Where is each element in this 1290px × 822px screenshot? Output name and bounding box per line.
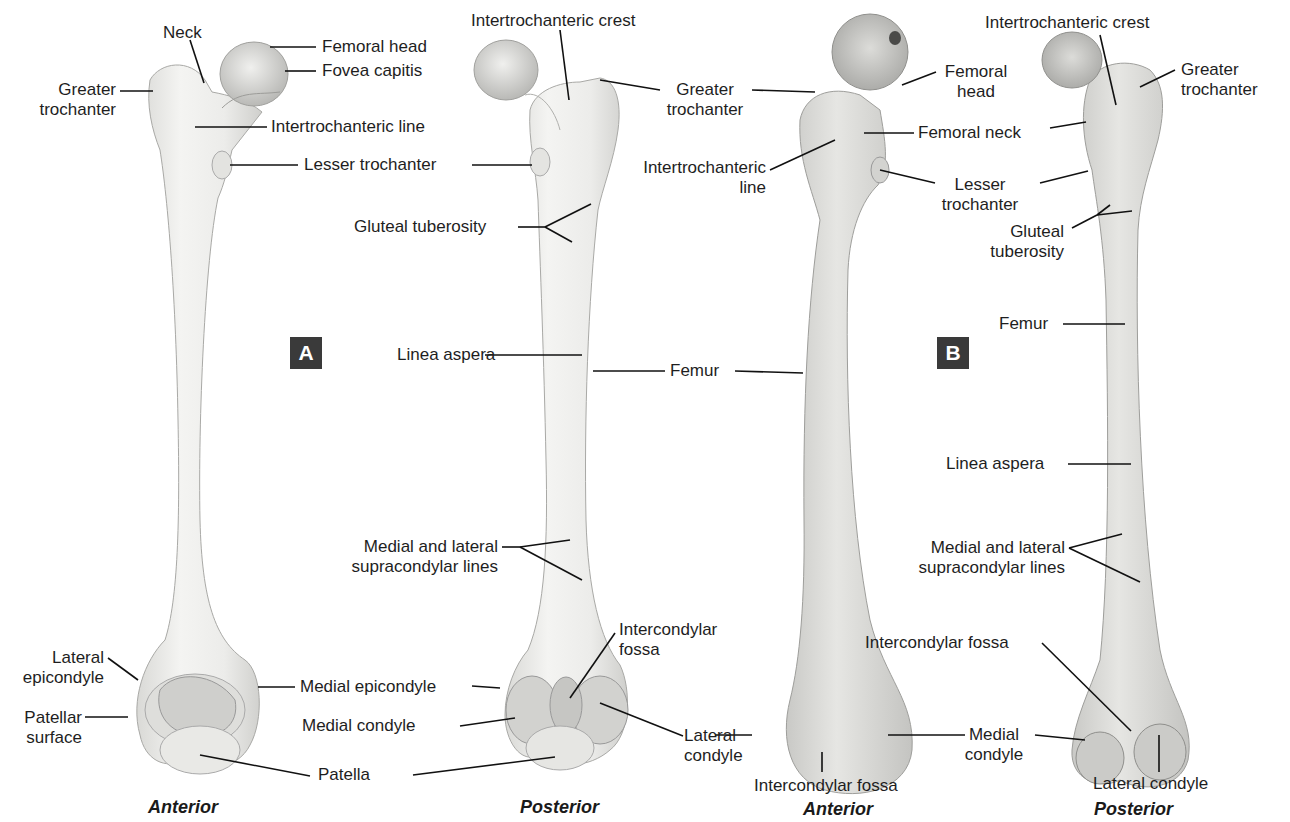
- label-intercondylar-fossa-b-post: Intercondylar fossa: [865, 633, 1009, 653]
- label-line: Greater: [655, 80, 755, 100]
- label-medial-condyle-a: Medial condyle: [302, 716, 415, 736]
- view-label-a-anterior: Anterior: [148, 797, 218, 818]
- view-label-a-posterior: Posterior: [520, 797, 599, 818]
- femur-a-posterior: [474, 40, 628, 770]
- label-linea-aspera-b: Linea aspera: [946, 454, 1044, 474]
- label-intertrochanteric-crest-a: Intertrochanteric crest: [471, 11, 635, 31]
- label-line: Patellar: [16, 708, 82, 728]
- label-line: surface: [16, 728, 82, 748]
- femur-b-anterior: [786, 14, 912, 794]
- label-lateral-condyle-shared: Lateral condyle: [684, 726, 743, 766]
- label-line: line: [612, 178, 766, 198]
- label-line: supracondylar lines: [870, 558, 1065, 578]
- label-femoral-head-b: Femoral head: [935, 62, 1017, 102]
- label-supracondylar-lines-a: Medial and lateral supracondylar lines: [300, 537, 498, 577]
- label-femur-b: Femur: [999, 314, 1048, 334]
- label-medial-epicondyle: Medial epicondyle: [300, 677, 436, 697]
- label-line: Lateral: [16, 648, 104, 668]
- panel-badge-b: B: [937, 337, 969, 369]
- label-patella: Patella: [318, 765, 370, 785]
- label-femoral-neck: Femoral neck: [918, 123, 1021, 143]
- label-line: condyle: [684, 746, 743, 766]
- label-greater-trochanter-a: Greater trochanter: [36, 80, 116, 120]
- label-line: trochanter: [1181, 80, 1258, 100]
- label-line: trochanter: [36, 100, 116, 120]
- label-femoral-head-a: Femoral head: [322, 37, 427, 57]
- label-linea-aspera-a: Linea aspera: [397, 345, 495, 365]
- label-neck: Neck: [163, 23, 202, 43]
- label-line: Femoral: [935, 62, 1017, 82]
- label-intercondylar-fossa-a: Intercondylar fossa: [619, 620, 717, 660]
- label-line: Medial and lateral: [300, 537, 498, 557]
- label-intertrochanteric-line-a: Intertrochanteric line: [271, 117, 425, 137]
- label-intertrochanteric-crest-b: Intertrochanteric crest: [985, 13, 1149, 33]
- label-line: Lateral: [684, 726, 743, 746]
- label-line: epicondyle: [16, 668, 104, 688]
- label-line: supracondylar lines: [300, 557, 498, 577]
- label-lesser-trochanter-a: Lesser trochanter: [304, 155, 436, 175]
- label-line: Intertrochanteric: [612, 158, 766, 178]
- label-lateral-epicondyle: Lateral epicondyle: [16, 648, 104, 688]
- view-label-b-posterior: Posterior: [1094, 799, 1173, 820]
- panel-badge-a: A: [290, 337, 322, 369]
- label-lesser-trochanter-b: Lesser trochanter: [925, 175, 1035, 215]
- label-line: Intercondylar: [619, 620, 717, 640]
- label-greater-trochanter-b: Greater trochanter: [1181, 60, 1258, 100]
- label-lateral-condyle-b: Lateral condyle: [1093, 774, 1208, 794]
- label-femur-shared: Femur: [670, 361, 719, 381]
- label-gluteal-tuberosity-b: Gluteal tuberosity: [960, 222, 1064, 262]
- label-line: trochanter: [925, 195, 1035, 215]
- label-line: Greater: [1181, 60, 1258, 80]
- label-line: Medial and lateral: [870, 538, 1065, 558]
- label-line: head: [935, 82, 1017, 102]
- label-line: Medial: [955, 725, 1033, 745]
- label-line: tuberosity: [960, 242, 1064, 262]
- label-medial-condyle-b: Medial condyle: [955, 725, 1033, 765]
- label-line: fossa: [619, 640, 717, 660]
- label-gluteal-tuberosity-a: Gluteal tuberosity: [354, 217, 486, 237]
- view-label-b-anterior: Anterior: [803, 799, 873, 820]
- label-fovea-capitis: Fovea capitis: [322, 61, 422, 81]
- bone-artwork: [0, 0, 1290, 822]
- label-line: Greater: [36, 80, 116, 100]
- label-greater-trochanter-a-post: Greater trochanter: [655, 80, 755, 120]
- femur-a-anterior: [137, 42, 288, 774]
- label-patellar-surface: Patellar surface: [16, 708, 82, 748]
- label-line: condyle: [955, 745, 1033, 765]
- label-line: Lesser: [925, 175, 1035, 195]
- label-supracondylar-lines-b: Medial and lateral supracondylar lines: [870, 538, 1065, 578]
- label-intertrochanteric-line-b: Intertrochanteric line: [612, 158, 766, 198]
- femur-anatomy-figure: A B Neck Greater trochanter Femoral head…: [0, 0, 1290, 822]
- label-line: trochanter: [655, 100, 755, 120]
- label-intercondylar-fossa-b-ant: Intercondylar fossa: [754, 776, 898, 796]
- femur-b-posterior: [1042, 32, 1189, 787]
- label-line: Gluteal: [960, 222, 1064, 242]
